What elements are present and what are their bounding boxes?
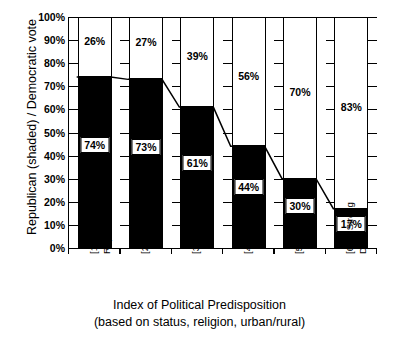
gridline bbox=[326, 17, 335, 18]
x-category-label: [6, 7] StrongDem. bbox=[344, 202, 355, 254]
bar-democratic bbox=[283, 17, 317, 179]
y-tick-label: 80% bbox=[27, 57, 65, 69]
gridline bbox=[326, 63, 335, 64]
bar-republican bbox=[232, 146, 266, 248]
y-tick-label: 60% bbox=[27, 103, 65, 115]
x-category-label-line1: [2] bbox=[139, 243, 150, 254]
bar-democratic bbox=[334, 17, 368, 209]
gridline bbox=[274, 248, 283, 249]
gridline bbox=[120, 133, 129, 134]
gridline bbox=[172, 202, 181, 203]
bar-democratic bbox=[129, 17, 163, 79]
x-category-label: [1] StrongRep. bbox=[88, 213, 99, 254]
gridline bbox=[120, 40, 129, 41]
gridline bbox=[326, 156, 335, 157]
y-tick-label: 10% bbox=[27, 219, 65, 231]
gridline bbox=[69, 17, 78, 18]
y-tick-label: 70% bbox=[27, 80, 65, 92]
y-tick-label: 20% bbox=[27, 196, 65, 208]
gridline bbox=[274, 86, 283, 87]
gridline bbox=[326, 202, 335, 203]
gridline bbox=[326, 109, 335, 110]
x-axis-title: Index of Political Predisposition (based… bbox=[0, 297, 399, 331]
gridline bbox=[172, 86, 181, 87]
gridline bbox=[172, 109, 181, 110]
gridline bbox=[223, 63, 232, 64]
plot-area: 26%74%27%73%39%61%56%44%70%30%83%17% bbox=[68, 17, 377, 249]
y-tick-label: 40% bbox=[27, 150, 65, 162]
x-tick-mark bbox=[222, 248, 223, 254]
bar-republican bbox=[129, 79, 163, 248]
gridline bbox=[223, 156, 232, 157]
gridline bbox=[172, 40, 181, 41]
y-tick-label: 90% bbox=[27, 34, 65, 46]
gridline bbox=[223, 109, 232, 110]
x-category-label-line1: [6, 7] Strong bbox=[344, 202, 355, 254]
bar-democratic bbox=[78, 17, 112, 77]
gridline bbox=[172, 225, 181, 226]
x-tick-mark bbox=[325, 248, 326, 254]
gridline bbox=[120, 202, 129, 203]
gridline bbox=[172, 63, 181, 64]
x-category-label-line1: [1] Strong bbox=[88, 213, 99, 254]
value-label-republican: 61% bbox=[183, 155, 212, 171]
value-label-republican: 74% bbox=[80, 137, 109, 153]
value-label-democratic: 56% bbox=[238, 70, 259, 82]
gridline bbox=[172, 133, 181, 134]
y-tick-label: 30% bbox=[27, 173, 65, 185]
gridline bbox=[69, 133, 78, 134]
gridline bbox=[223, 179, 232, 180]
bar-democratic bbox=[180, 17, 214, 107]
value-label-democratic: 39% bbox=[187, 50, 208, 62]
gridline bbox=[69, 109, 78, 110]
chart-figure: Republican (shaded) / Democratic vote 10… bbox=[0, 0, 399, 337]
y-axis-ticks: 100%90%80%70%60%50%40%30%20%10%0% bbox=[20, 0, 65, 337]
gridline bbox=[69, 156, 78, 157]
gridline bbox=[274, 179, 283, 180]
gridline bbox=[172, 17, 181, 18]
gridline bbox=[69, 248, 78, 249]
x-axis-title-line1: Index of Political Predisposition bbox=[0, 297, 399, 314]
x-category-label-line1: [3] bbox=[190, 243, 201, 254]
gridline bbox=[69, 202, 78, 203]
gridline bbox=[326, 225, 335, 226]
value-label-democratic: 70% bbox=[289, 86, 310, 98]
x-category-label: [5] bbox=[293, 243, 304, 254]
gridline bbox=[69, 179, 78, 180]
gridline bbox=[172, 156, 181, 157]
value-label-democratic: 27% bbox=[135, 36, 156, 48]
gridline bbox=[120, 156, 129, 157]
gridline bbox=[120, 86, 129, 87]
gridline bbox=[274, 17, 283, 18]
x-category-label-line2: Rep. bbox=[101, 234, 112, 254]
gridline bbox=[326, 40, 335, 41]
gridline bbox=[223, 40, 232, 41]
gridline bbox=[274, 40, 283, 41]
gridline bbox=[274, 202, 283, 203]
x-tick-mark bbox=[376, 248, 377, 254]
x-tick-mark bbox=[273, 248, 274, 254]
gridline bbox=[120, 179, 129, 180]
x-axis-title-line2: (based on status, religion, urban/rural) bbox=[0, 314, 399, 331]
x-tick-mark bbox=[171, 248, 172, 254]
gridline bbox=[120, 248, 129, 249]
gridline bbox=[223, 225, 232, 226]
gridline bbox=[69, 86, 78, 87]
bar-democratic bbox=[232, 17, 266, 146]
value-label-republican: 44% bbox=[234, 179, 263, 195]
gridline bbox=[274, 109, 283, 110]
gridline bbox=[223, 17, 232, 18]
gridline bbox=[326, 133, 335, 134]
x-category-label: [3] bbox=[190, 243, 201, 254]
gridline bbox=[326, 86, 335, 87]
gridline bbox=[326, 248, 335, 249]
x-category-label-line1: [4] bbox=[242, 243, 253, 254]
gridline bbox=[223, 86, 232, 87]
gridline bbox=[274, 156, 283, 157]
x-tick-mark bbox=[119, 248, 120, 254]
gridline bbox=[274, 225, 283, 226]
value-label-democratic: 83% bbox=[341, 101, 362, 113]
y-tick-label: 0% bbox=[27, 242, 65, 254]
x-tick-mark bbox=[68, 248, 69, 254]
gridline bbox=[120, 225, 129, 226]
